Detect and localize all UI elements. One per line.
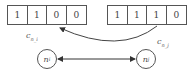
vector-left-cell: 0: [67, 6, 86, 24]
vector-right-cell: 1: [108, 6, 128, 24]
vector-left-cell: 1: [28, 6, 48, 24]
node-right: nj: [136, 49, 156, 69]
vector-left-label: cn_i: [26, 31, 38, 42]
vector-right-cell: 1: [147, 6, 167, 24]
node-left: ni: [37, 49, 57, 69]
vector-right-cell: 0: [167, 6, 186, 24]
vector-right: 1 1 1 0: [107, 5, 187, 25]
vector-right-label: cn_j: [157, 37, 169, 48]
copy-arrow: [60, 26, 157, 41]
vector-right-cell: 1: [128, 6, 148, 24]
vector-left: 1 1 0 0: [7, 5, 87, 25]
label-subscript: n_i: [30, 36, 37, 42]
vector-left-cell: 0: [47, 6, 67, 24]
label-subscript: n_j: [161, 42, 168, 48]
vector-left-cell: 1: [8, 6, 28, 24]
